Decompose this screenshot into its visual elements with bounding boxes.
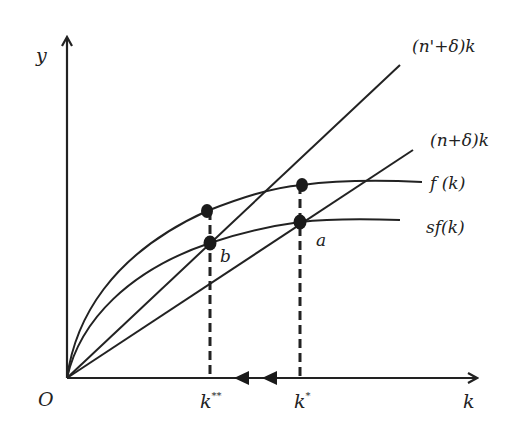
k-double-star-superscript: ** [212,390,222,401]
depreciation-line-label: (n+δ)k [430,130,489,150]
point-a-label: a [316,230,326,250]
high-depreciation-line [67,65,400,378]
left-arrow-icon [234,371,249,385]
high-depreciation-line-label: (n'+δ)k [412,36,476,56]
point-f-at-k-double-star [201,204,213,218]
k-star-superscript: * [306,390,311,401]
production-curve-label: f (k) [428,173,465,193]
k-double-star-label: k** [200,390,222,412]
savings-curve-label: sf(k) [426,217,465,237]
left-arrow-icon [262,371,277,385]
solow-diagram: y O k (n'+δ)k (n+δ)k f (k) sf(k) a b k**… [0,0,525,438]
point-a [294,215,307,230]
point-b-label: b [220,246,231,266]
point-f-at-k-star [296,178,308,192]
y-axis-label: y [35,44,47,66]
k-star-label: k* [294,390,311,412]
origin-label: O [38,388,54,410]
x-axis-label: k [463,390,475,412]
k-double-star-base: k [200,390,212,412]
point-b [204,236,217,251]
k-star-base: k [294,390,306,412]
depreciation-line [67,150,413,378]
savings-curve [67,219,400,378]
